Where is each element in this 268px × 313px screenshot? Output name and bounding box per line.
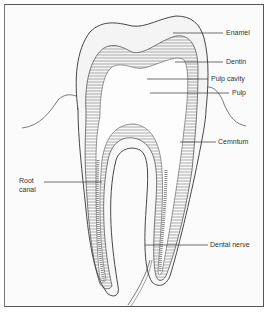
tooth-diagram <box>0 0 268 313</box>
label-pulp-cavity: Pulp cavity <box>211 75 245 83</box>
label-dental-nerve: Dental nerve <box>210 241 250 249</box>
gum-line-left <box>22 95 76 128</box>
label-pulp: Pulp <box>232 89 246 97</box>
label-canal: canal <box>19 186 36 194</box>
label-enamel: Enamel <box>226 29 250 37</box>
label-cemntum: Cemntum <box>218 138 248 146</box>
label-dentin: Dentin <box>226 58 246 66</box>
label-root: Root <box>19 177 34 185</box>
